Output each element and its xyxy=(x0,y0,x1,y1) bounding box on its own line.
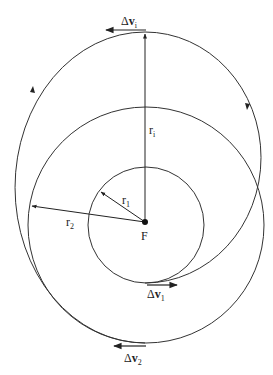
ri-label: ri xyxy=(149,123,156,139)
focus-point xyxy=(142,219,148,225)
direction-arrow-icon xyxy=(245,103,250,110)
inner-circular-orbit xyxy=(88,167,204,283)
direction-arrow-icon xyxy=(30,86,35,93)
transfer-ellipse-1 xyxy=(145,32,261,283)
dv2-label: Δv2 xyxy=(124,351,142,367)
outer-circular-orbit xyxy=(28,107,264,343)
r1-label: r1 xyxy=(122,193,130,209)
dv1-label: Δv1 xyxy=(147,287,165,303)
dvi-label: Δvi xyxy=(121,14,138,30)
focus-label: F xyxy=(141,229,148,243)
bi-elliptic-transfer-diagram: F ri r1 r2 Δvi Δv1 Δv2 xyxy=(0,0,273,375)
r2-label: r2 xyxy=(66,215,74,231)
